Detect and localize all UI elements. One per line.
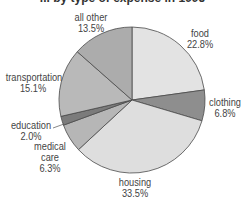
label-housing: housing 33.5% [116,177,155,199]
label-education: education 2.0% [11,120,51,142]
label-transportation: transportation 15.1% [6,72,61,94]
education-leader-line [53,124,64,128]
label-medical-care: medical care 6.3% [32,141,67,174]
label-all-other: all other 13.5% [71,12,111,34]
label-housing-pct: 33.5% [116,188,155,199]
label-transportation-pct: 15.1% [6,83,61,94]
label-medical-pct: 6.3% [32,163,67,174]
label-all-other-pct: 13.5% [71,23,111,34]
label-clothing-pct: 6.8% [206,108,245,119]
label-clothing: clothing 6.8% [206,97,245,119]
label-food: food 22.8% [182,28,217,50]
label-food-pct: 22.8% [182,39,217,50]
